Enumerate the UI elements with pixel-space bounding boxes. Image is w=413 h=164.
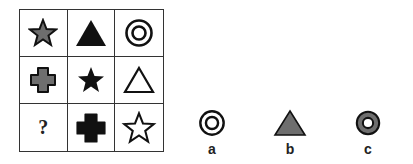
gray-star-icon [28,18,58,48]
gray-cross-icon [29,66,57,94]
option-label: c [364,141,372,157]
outline-star-icon [121,111,157,145]
cell-r1c1 [20,10,68,57]
black-triangle-icon [74,18,108,48]
option-label: b [286,141,295,157]
cell-r3c1-missing: ? [20,104,68,151]
cell-r3c2 [68,104,116,151]
cell-r2c1 [20,57,68,104]
concentric-circles-icon [124,18,154,48]
gray-ring-icon [354,109,382,137]
question-mark: ? [38,116,48,139]
option-c[interactable]: c [346,109,390,157]
option-label: a [208,141,216,157]
option-a[interactable]: a [190,109,234,157]
cell-r2c2 [68,57,116,104]
cell-r1c3 [115,10,163,57]
gray-triangle-icon [273,109,307,137]
puzzle-grid: ? [19,9,164,152]
cell-r2c3 [115,57,163,104]
black-star-icon [75,65,107,95]
black-cross-icon [75,112,107,144]
cell-r3c3 [115,104,163,151]
outline-triangle-icon [122,65,156,95]
option-b[interactable]: b [268,109,312,157]
concentric-circles-icon [198,109,226,137]
cell-r1c2 [68,10,116,57]
